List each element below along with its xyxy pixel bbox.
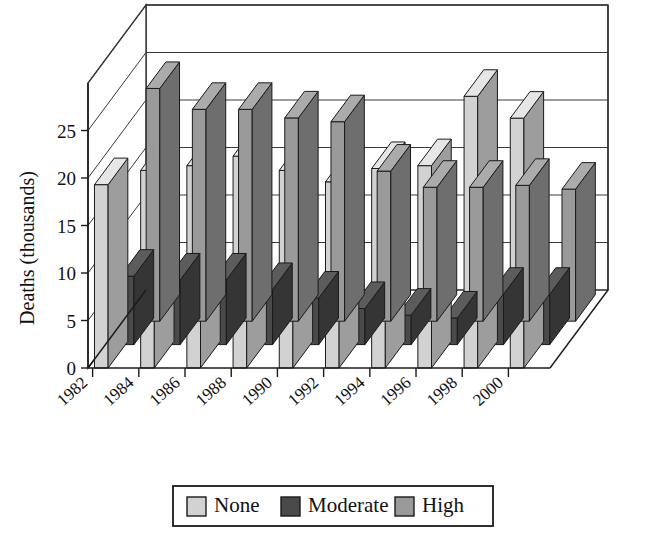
y-tick-label-10: 10 (57, 263, 76, 284)
legend-item-high[interactable]: High (395, 493, 465, 517)
bar-side-face (206, 83, 226, 321)
bar-front-face (94, 185, 108, 368)
legend-swatch-moderate (281, 497, 300, 516)
bar-side-face (576, 163, 596, 322)
x-tick-label-1986: 1986 (146, 373, 184, 410)
bar-side-face (391, 145, 411, 322)
y-axis-title: Deaths (thousands) (16, 171, 39, 325)
bar-side-face (252, 83, 272, 321)
y-tick-label-20: 20 (57, 168, 76, 189)
legend-item-moderate[interactable]: Moderate (281, 493, 388, 517)
chart-container: 0510152025Deaths (thousands)198219841986… (0, 0, 658, 554)
x-axis-group: 1982198419861988199019921994199619982000 (53, 368, 508, 410)
legend-item-none[interactable]: None (187, 493, 260, 517)
bar-side-face (483, 161, 503, 321)
x-tick-label-1988: 1988 (192, 373, 230, 410)
x-tick-label-1994: 1994 (331, 373, 369, 410)
y-tick-label-5: 5 (67, 311, 77, 332)
bar-side-face (345, 95, 365, 321)
bar-side-face (529, 159, 549, 321)
legend: NoneModerateHigh (173, 486, 493, 526)
y-tick-label-25: 25 (57, 121, 76, 142)
y-tick-label-15: 15 (57, 216, 76, 237)
bar-side-face (298, 91, 318, 321)
x-tick-label-1982: 1982 (53, 373, 91, 410)
bar-side-face (437, 161, 457, 321)
x-tick-label-1990: 1990 (238, 373, 276, 410)
bar-chart-3d: 0510152025Deaths (thousands)198219841986… (0, 0, 658, 554)
x-tick-label-1998: 1998 (423, 373, 461, 410)
x-tick-label-1984: 1984 (100, 373, 138, 410)
legend-swatch-high (395, 497, 414, 516)
legend-label-moderate: Moderate (308, 493, 388, 517)
x-tick-label-1992: 1992 (284, 373, 322, 410)
bar-side-face (160, 62, 180, 321)
x-tick-label-1996: 1996 (377, 373, 415, 410)
legend-label-high: High (422, 493, 465, 517)
x-tick-label-2000: 2000 (469, 373, 507, 410)
legend-label-none: None (214, 493, 260, 517)
legend-swatch-none (187, 497, 206, 516)
y-axis-group: 0510152025 (57, 83, 88, 379)
bars-group (94, 62, 595, 368)
